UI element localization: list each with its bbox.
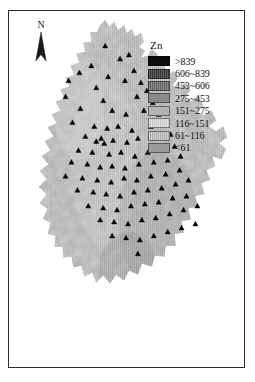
legend-label: 116~151 [175,118,209,129]
legend-swatch [148,143,170,153]
legend-label: 61~116 [175,130,204,141]
legend-swatch [148,118,170,128]
legend-item[interactable]: 275~453 [148,92,240,104]
legend-swatch [148,56,170,66]
sampling-site-marker[interactable] [193,221,198,226]
legend-item[interactable]: 606~839 [148,67,240,79]
legend-item[interactable]: >839 [148,55,240,67]
legend-item[interactable]: <61 [148,142,240,154]
legend-label: 606~839 [175,68,210,79]
legend-item[interactable]: 61~116 [148,129,240,141]
legend-swatch [148,106,170,116]
north-arrow-label: N [28,19,54,30]
north-arrow-icon [28,30,54,64]
legend-item[interactable]: 151~275 [148,105,240,117]
legend-label: <61 [175,142,190,153]
legend-swatch [148,131,170,141]
north-arrow: N [28,19,54,67]
legend-item[interactable]: 453~606 [148,80,240,92]
figure-root: N Zn >839606~839453~606275~453151~275116… [0,0,255,382]
legend-label: 151~275 [175,105,210,116]
legend-swatch [148,93,170,103]
legend-swatch [148,81,170,91]
legend-item-list: >839606~839453~606275~453151~275116~1516… [148,55,240,154]
legend-label: 453~606 [175,80,210,91]
legend-swatch [148,69,170,79]
legend-title: Zn [150,39,240,52]
map-legend: Zn >839606~839453~606275~453151~275116~1… [148,39,240,154]
legend-item[interactable]: 116~151 [148,117,240,129]
legend-label: >839 [175,56,195,67]
map-frame-border: N Zn >839606~839453~606275~453151~275116… [8,10,245,368]
legend-label: 275~453 [175,93,210,104]
